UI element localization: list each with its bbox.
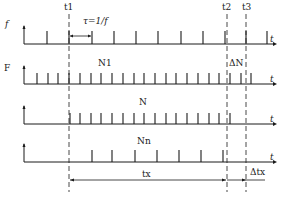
row-measured-signal [23,143,278,164]
arrow-right-icon [222,179,226,182]
row4-x-label: t [270,152,274,162]
marker-t3-label: t3 [242,2,252,12]
tx-label: tx [142,169,151,179]
arrow-left-icon [70,179,74,182]
marker-t2-label: t2 [222,2,231,12]
arrow-left-icon [70,35,73,38]
delta-n-label: ΔN [229,58,243,68]
row-reference-signal [23,25,278,46]
n-label: N [139,97,147,107]
marker-t1-label: t1 [64,2,73,12]
row2-y-label: F [4,63,10,73]
n1-label: N1 [98,58,112,68]
row-standard-clock [23,65,278,86]
row1-x-label: t [270,34,274,44]
row1-y-label: f [4,19,10,29]
y-axis-arrow-icon [23,25,26,29]
y-axis-arrow-icon [23,143,26,147]
row-gated-count [23,105,278,126]
period-label: τ=1/f [83,16,109,26]
arrow-right-icon [88,35,91,38]
delta-tx-label: Δtx [250,167,265,177]
annotations [70,35,265,182]
row2-x-label: t [270,74,274,84]
row3-x-label: t [270,114,274,124]
timing-diagram-svg: t1 t2 t3 f F t t t t τ=1/f N1 ΔN N Nn tx… [0,0,290,201]
timing-diagram: t1 t2 t3 f F t t t t τ=1/f N1 ΔN N Nn tx… [0,0,290,201]
y-axis-arrow-icon [23,65,26,69]
y-axis-arrow-icon [23,105,26,109]
nn-label: Nn [137,136,151,146]
arrow-right-icon [242,179,246,182]
